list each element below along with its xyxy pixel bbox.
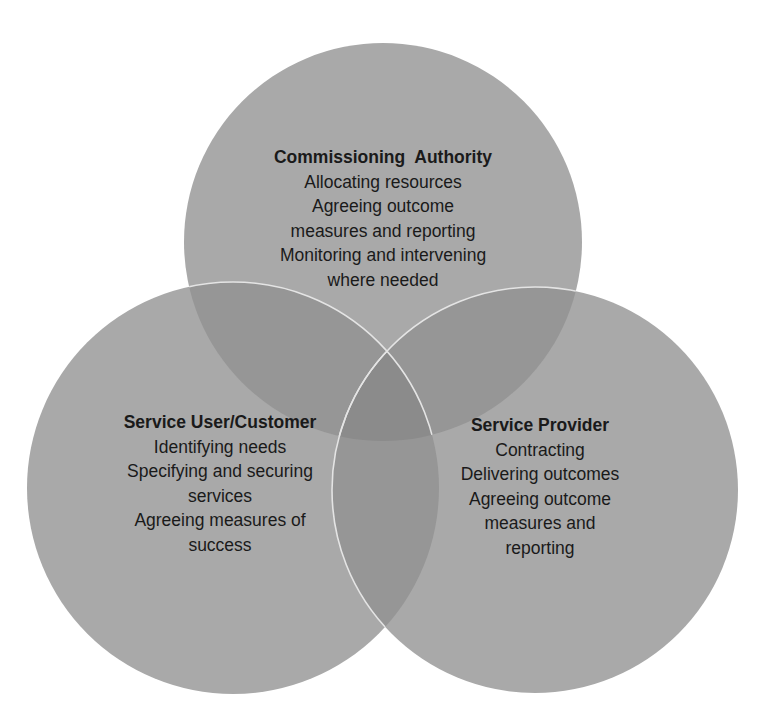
circle-title: Service Provider [410,413,670,438]
circle-line: Contracting [410,438,670,463]
circle-line: success [80,533,360,558]
circle-title: Service User/Customer [80,410,360,435]
circle-line: Delivering outcomes [410,462,670,487]
circle-line: measures and [410,511,670,536]
circle-line: Agreeing outcome [233,194,533,219]
label-service-provider: Service Provider Contracting Delivering … [410,413,670,560]
circle-line: Agreeing outcome [410,487,670,512]
circle-line: where needed [233,268,533,293]
circle-line: Agreeing measures of [80,508,360,533]
label-service-user: Service User/Customer Identifying needs … [80,410,360,557]
circle-line: Specifying and securing [80,459,360,484]
circle-title: Commissioning Authority [233,145,533,170]
circle-line: services [80,484,360,509]
circle-line: measures and reporting [233,219,533,244]
venn-diagram [0,0,768,725]
circle-line: Allocating resources [233,170,533,195]
circle-line: Identifying needs [80,435,360,460]
circle-line: Monitoring and intervening [233,243,533,268]
circle-line: reporting [410,536,670,561]
label-commissioning-authority: Commissioning Authority Allocating resou… [233,145,533,292]
